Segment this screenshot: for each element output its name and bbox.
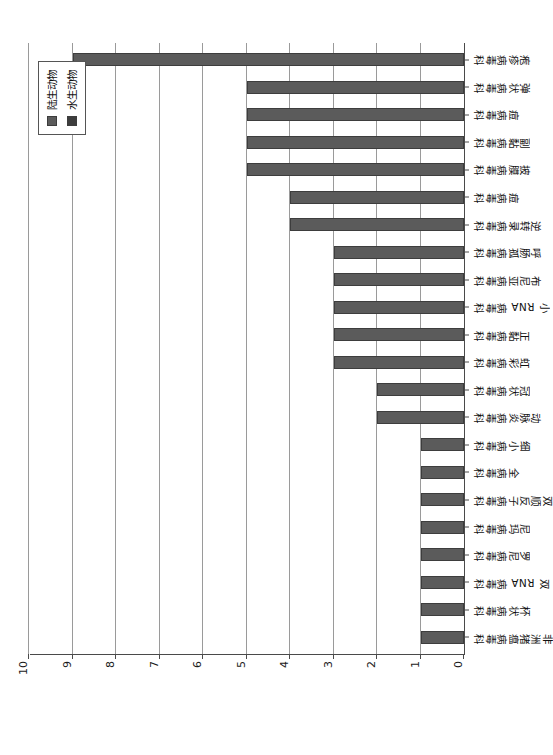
bar-slot: [30, 431, 464, 459]
bar-slot: [30, 596, 464, 624]
bar-slot: [30, 459, 464, 487]
bar-slot: [30, 74, 464, 102]
bar[interactable]: [421, 631, 465, 644]
legend-item[interactable]: 陆生动物: [44, 70, 59, 126]
bar-slot: [30, 514, 464, 542]
bar[interactable]: [334, 273, 465, 286]
bar[interactable]: [334, 328, 465, 341]
x-axis-category-label: 杯状病毒科: [473, 603, 530, 618]
bar[interactable]: [421, 548, 465, 561]
x-axis-category-label: 虹彩病毒科: [473, 355, 530, 370]
bar[interactable]: [290, 218, 464, 231]
bar[interactable]: [421, 576, 465, 589]
legend-label: 陆生动物: [44, 70, 59, 110]
x-axis-category-label: 尼玛病毒科: [473, 521, 530, 536]
x-axis-label-slot: 痘病毒科: [465, 101, 519, 129]
bar-slot: [30, 624, 464, 652]
x-axis-label-slot: 非洲猪瘟病毒科: [465, 624, 519, 652]
x-axis-category-label: 冠状病毒科: [473, 383, 530, 398]
y-axis-tick-label: 3: [321, 661, 334, 668]
bar-slot: [30, 404, 464, 432]
bar[interactable]: [421, 521, 465, 534]
bar[interactable]: [334, 246, 465, 259]
bar-slot: [30, 266, 464, 294]
x-axis-label-slot: 逆转录病毒科: [465, 211, 519, 239]
legend-item[interactable]: 水生动物: [64, 70, 79, 126]
x-axis-label-slot: 细小病毒科: [465, 432, 519, 460]
x-axis-category-label: 动脉炎病毒科: [473, 410, 541, 425]
bar[interactable]: [421, 603, 465, 616]
x-axis-label-slot: 呼肠孤病毒科: [465, 239, 519, 267]
bar[interactable]: [290, 191, 464, 204]
bar[interactable]: [377, 411, 464, 424]
y-axis-tick-label: 1: [408, 661, 421, 668]
bar-slot: [30, 239, 464, 267]
x-axis-category-label: 正黏病毒科: [473, 328, 530, 343]
x-axis-category-label: 布尼亚病毒科: [473, 273, 541, 288]
y-axis-tick-label: 5: [234, 661, 247, 668]
bar[interactable]: [247, 136, 465, 149]
x-axis-label-slot: 双 RNA 病毒科: [465, 569, 519, 597]
y-axis-tick-label: 7: [147, 661, 160, 668]
y-axis-tick-mark: [289, 654, 290, 659]
bar-slot: [30, 211, 464, 239]
x-axis-label-slot: 正黏病毒科: [465, 321, 519, 349]
y-axis-tick-mark: [202, 654, 203, 659]
y-axis-tick-mark: [115, 654, 116, 659]
x-axis-label-slot: 虹彩病毒科: [465, 349, 519, 377]
bar-slot: [30, 376, 464, 404]
y-axis-tick-mark: [463, 654, 464, 659]
bar[interactable]: [334, 356, 465, 369]
x-axis-label-slot: 双顺反子病毒科: [465, 487, 519, 515]
bar-slot: [30, 349, 464, 377]
x-axis-label-slot: 布尼亚病毒科: [465, 266, 519, 294]
legend-swatch-icon: [67, 116, 77, 126]
bar-slot: [30, 569, 464, 597]
x-axis-category-label: 双顺反子病毒科: [473, 493, 553, 508]
y-axis-tick-mark: [159, 654, 160, 659]
y-axis-tick-label: 10: [17, 661, 30, 675]
x-axis-label-slot: 冠状病毒科: [465, 377, 519, 405]
x-axis-category-label: 披膜病毒科: [473, 162, 530, 177]
x-axis-label-slot: 全病毒科: [465, 459, 519, 487]
bar[interactable]: [73, 53, 465, 66]
x-axis-category-label: 痘病毒科: [473, 107, 519, 122]
bar[interactable]: [421, 493, 465, 506]
x-axis-category-label: 弹状病毒科: [473, 80, 530, 95]
bar[interactable]: [421, 466, 465, 479]
bar-slot: [30, 541, 464, 569]
y-axis-tick-mark: [28, 654, 29, 659]
legend-swatch-icon: [47, 116, 57, 126]
x-axis-label-slot: 罗尼病毒科: [465, 542, 519, 570]
bar-slot: [30, 129, 464, 157]
bar[interactable]: [247, 81, 465, 94]
y-axis-tick-label: 2: [365, 661, 378, 668]
x-axis-label-slot: 杯状病毒科: [465, 597, 519, 625]
x-axis-category-label: 疱疹病毒科: [473, 52, 530, 67]
plot-area: 012345678910: [30, 43, 465, 655]
y-axis-tick-label: 6: [191, 661, 204, 668]
bar[interactable]: [247, 163, 465, 176]
bar-slot: [30, 156, 464, 184]
bar[interactable]: [334, 301, 465, 314]
x-axis-category-label: 呼肠孤病毒科: [473, 245, 541, 260]
y-axis-tick-mark: [420, 654, 421, 659]
x-axis-category-label: 逆转录病毒科: [473, 218, 541, 233]
bar-slot: [30, 321, 464, 349]
bar-slot: [30, 101, 464, 129]
x-axis-label-slot: 痘病毒科: [465, 184, 519, 212]
y-axis-tick-label: 8: [104, 661, 117, 668]
bar[interactable]: [421, 438, 465, 451]
chart-legend: 陆生动物水生动物: [38, 61, 86, 135]
x-axis-category-label: 罗尼病毒科: [473, 548, 530, 563]
bar[interactable]: [377, 383, 464, 396]
x-axis-label-slot: 疱疹病毒科: [465, 46, 519, 74]
y-axis-tick-mark: [333, 654, 334, 659]
y-axis-tick-mark: [246, 654, 247, 659]
x-axis-category-label: 细小病毒科: [473, 438, 530, 453]
bar[interactable]: [247, 108, 465, 121]
bars-group: [30, 43, 464, 654]
legend-label: 水生动物: [64, 70, 79, 110]
y-axis-tick-label: 0: [452, 661, 465, 668]
